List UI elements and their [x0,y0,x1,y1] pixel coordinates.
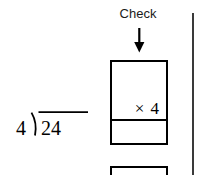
divisor-value: 4 [16,117,26,139]
worksheet-canvas: Check × 4 4 24 [0,0,205,175]
long-division-problem: 4 24 [14,108,104,140]
answer-box-bottom-cell[interactable] [112,121,166,143]
check-label: Check [112,6,164,22]
page-divider-rule [192,13,194,175]
second-answer-box[interactable] [110,166,168,175]
multiplier-expression: × 4 [135,99,160,118]
answer-box-top-cell[interactable]: × 4 [112,62,166,121]
multiplication-answer-box[interactable]: × 4 [110,60,168,145]
dividend-value: 24 [41,117,61,139]
arrow-down-icon [133,28,146,53]
